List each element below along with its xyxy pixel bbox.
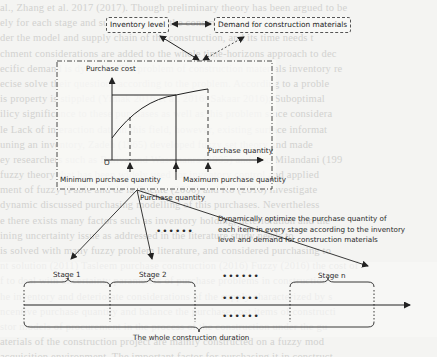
inventory-arrow: [160, 36, 199, 60]
stage-n-label: Stage n: [318, 271, 346, 280]
y-axis-label: Purchase cost: [86, 64, 136, 73]
max-purchase-label: Maximum purchase quantity: [183, 175, 286, 184]
ellipsis-dots: ••••••: [222, 271, 260, 281]
ellipsis-dots: ••••••: [222, 293, 260, 303]
min-purchase-label: Minimum purchase quantity: [60, 175, 161, 184]
purchase-quantity-label: Purchase quantity: [140, 193, 205, 202]
origin-label: O: [104, 158, 110, 167]
stage-2-label: Stage 2: [139, 270, 167, 279]
stage-1-label: Stage 1: [53, 270, 81, 279]
optimization-annotation: Dynamically optimize the purchase quanti…: [218, 214, 405, 246]
ellipsis-dots: ••••••: [156, 226, 194, 236]
demand-box: Demand for construction materials: [214, 17, 351, 33]
inventory-level-box: Inventory level: [106, 17, 169, 33]
demand-arrow: [203, 37, 244, 60]
ellipsis-dots: ••••••: [222, 311, 260, 321]
x-axis-label: Purchase quantity: [208, 146, 273, 155]
whole-duration-label: The whole construction duration: [133, 333, 249, 342]
